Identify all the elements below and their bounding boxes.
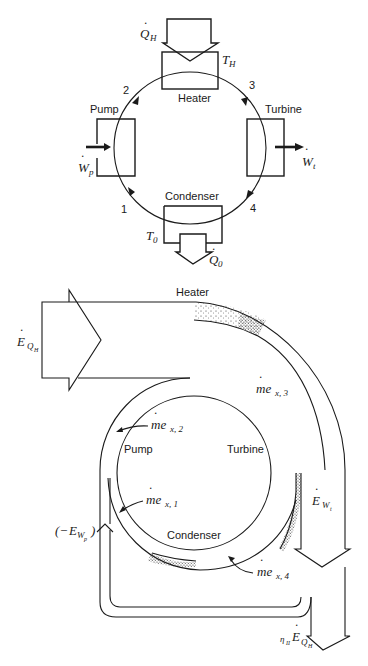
svg-text:x, 3: x, 3 [274,388,288,398]
svg-text:(−: (− [55,523,68,538]
condenser-label: Condenser [165,190,219,202]
state-point-2: 2 [123,84,129,96]
svg-text:p: p [88,167,94,177]
cold-temperature-label: T 0 [146,228,158,245]
svg-text:·: · [315,482,318,496]
svg-text:0: 0 [218,259,223,269]
svg-text:η: η [280,634,285,644]
rankine-cycle-figure: Heater Q · H T H Pump W · p Turbine W · … [0,0,368,666]
svg-text:Q: Q [27,341,34,351]
turbine-work-label: W · t [302,142,316,171]
inner-cycle-circle [117,396,271,550]
heater-label: Heater [178,92,211,104]
outer-band-top-edge [78,302,345,549]
turbine-label: Turbine [265,103,302,115]
svg-text:·: · [20,323,23,337]
exergy-flow-diagram: E · Q H Heater E · W t [16,286,350,650]
pump-exergy-label: (− E W p ) [55,523,95,542]
pump-work-arrow-icon [104,143,111,151]
heat-rejection-arrow-icon [176,234,212,264]
pump-exergy-arrow-icon [97,524,113,532]
top-cycle-diagram: Heater Q · H T H Pump W · p Turbine W · … [78,16,316,269]
net-output-label: η II E · Q H [280,618,313,649]
state-point-3: 3 [249,79,255,91]
flow-arrow-3-icon [241,97,248,106]
turbine-exergy-label: E · W t [311,482,332,512]
condenser-label-bottom: Condenser [167,529,221,541]
heater-box [162,52,218,89]
pump-label: Pump [90,103,119,115]
svg-text:H: H [33,347,39,353]
state-point-4: 4 [250,202,256,214]
flow-label-4: me · x, 4 [228,553,289,581]
svg-text:·: · [260,553,263,567]
turbine-work-arrow-icon [295,143,304,151]
exergy-input-label: E · Q H [16,323,39,353]
flow-label-1: me · x, 1 [119,481,178,513]
flow-arrow-1-icon [128,187,135,196]
heat-rejection-label: Q · 0 [209,242,223,269]
svg-text:·: · [154,406,157,420]
svg-text:H: H [149,33,157,43]
heater-label-bottom: Heater [176,286,209,298]
svg-text:p: p [83,536,87,542]
heat-input-arrow-icon [163,19,218,61]
pump-work-label: W · p [78,149,94,177]
svg-text:·: · [149,481,152,495]
svg-text:t: t [330,506,332,512]
svg-text:): ) [90,523,95,538]
exergy-input-arrow-icon [42,290,101,390]
net-output-arrow-icon [307,567,350,650]
svg-text:H: H [307,643,313,649]
svg-text:Q: Q [301,637,308,647]
heat-input-label: Q · H [140,16,157,43]
svg-text:x, 2: x, 2 [169,424,183,434]
svg-text:H: H [228,59,236,69]
turbine-exergy-arrow-icon [295,473,350,567]
state-point-1: 1 [121,203,127,215]
svg-text:·: · [295,618,298,632]
condenser-box [164,206,222,243]
svg-text:·: · [212,242,215,256]
pump-label-bottom: Pump [124,443,153,455]
flow-2-pointer-icon [116,427,123,432]
turbine-band-outer-curve [258,336,325,470]
svg-text:x, 1: x, 1 [164,499,178,509]
turbine-destruction-region [279,473,301,552]
svg-text:·: · [305,142,308,156]
svg-text:·: · [259,370,262,384]
svg-text:t: t [313,161,316,171]
svg-text:·: · [144,16,147,30]
svg-text:E: E [68,523,77,538]
flow-4-pointer-icon [228,556,235,562]
hot-temperature-label: T H [222,52,236,69]
svg-text:0: 0 [153,235,158,245]
flow-label-3: me · x, 3 [256,370,288,398]
turbine-label-bottom: Turbine [227,443,264,455]
svg-text:x, 4: x, 4 [275,571,289,581]
svg-text:·: · [81,149,84,163]
svg-text:II: II [285,640,291,646]
